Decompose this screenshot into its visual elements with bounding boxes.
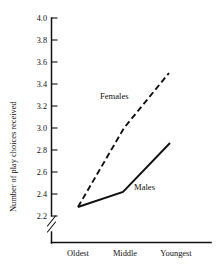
y-tick-label-2-8: 2.8 <box>37 146 47 155</box>
y-tick-label-3-4: 3.4 <box>37 80 47 89</box>
series-label-females: Females <box>100 91 129 101</box>
y-tick-label-3-0: 3.0 <box>37 124 47 133</box>
y-axis-title: Number of play choices received <box>9 101 18 212</box>
chart-background <box>0 0 216 274</box>
series-label-males: Males <box>134 182 156 192</box>
y-tick-label-2-4: 2.4 <box>37 190 47 199</box>
x-category-label-youngest: Youngest <box>160 249 192 258</box>
y-tick-label-3-8: 3.8 <box>37 36 47 45</box>
y-tick-label-2-2: 2.2 <box>37 212 47 221</box>
x-category-label-middle: Middle <box>113 249 137 258</box>
line-chart-svg: 4.0 3.8 3.6 3.4 3.2 3.0 2.8 2.6 2.4 2.2 … <box>0 0 216 274</box>
y-tick-label-3-6: 3.6 <box>37 58 47 67</box>
x-category-label-oldest: Oldest <box>67 249 90 258</box>
y-tick-label-4-0: 4.0 <box>37 14 47 23</box>
y-tick-label-2-6: 2.6 <box>37 168 47 177</box>
y-tick-label-3-2: 3.2 <box>37 102 47 111</box>
chart-figure: 4.0 3.8 3.6 3.4 3.2 3.0 2.8 2.6 2.4 2.2 … <box>0 0 216 274</box>
